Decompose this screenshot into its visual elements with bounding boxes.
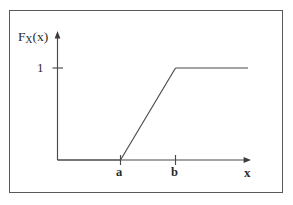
y-axis-label-argument: (x) bbox=[32, 29, 48, 44]
x-tick-label-a: a bbox=[116, 166, 122, 179]
x-tick-label-b: b bbox=[171, 166, 178, 179]
figure-container: FX(x) 1 a b x bbox=[0, 0, 293, 205]
cdf-segment-ramp bbox=[121, 68, 176, 160]
arrow-up-icon bbox=[55, 31, 61, 38]
y-axis-label-main: F bbox=[18, 29, 26, 44]
arrow-right-icon bbox=[244, 157, 251, 163]
x-axis-label: x bbox=[244, 166, 251, 179]
y-axis-label: FX(x) bbox=[18, 30, 48, 46]
y-tick-label-1: 1 bbox=[37, 61, 44, 74]
